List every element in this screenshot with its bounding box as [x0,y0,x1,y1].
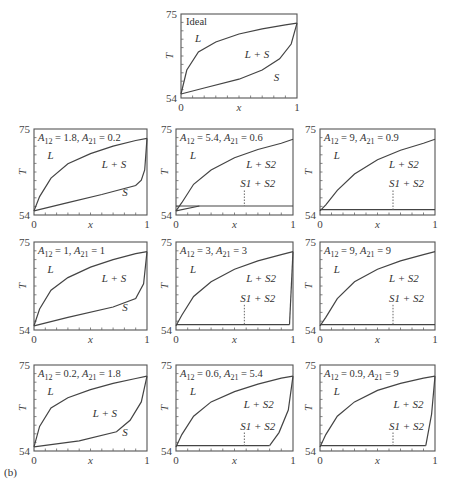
region-label: S [274,71,280,83]
x-tick-max: 1 [144,333,150,345]
x-axis-label: x [231,454,237,466]
panel-r3c3: 755401xTA12 = 0.9, A21 = 9LL + S2S1 + S2 [302,359,438,466]
y-tick-max: 75 [19,123,31,135]
panel-r1c1: 755401xTA12 = 1.8, A21 = 0.2LL + SS [16,123,150,230]
y-tick-max: 75 [161,359,173,371]
x-tick-max: 1 [432,454,438,466]
panel-ideal: 755401xTIdealLL + SS [163,8,300,113]
panel-params: A12 = 1.8, A21 = 0.2 [37,132,121,146]
y-tick-max: 75 [305,123,317,135]
panel-r2c2: 755401xTA12 = 3, A21 = 3LL + S2S1 + S2 [158,236,296,345]
x-tick-min: 0 [173,333,179,345]
panel-params: A12 = 9, A21 = 0.9 [323,132,399,146]
y-tick-min: 54 [305,445,317,457]
x-axis-label: x [87,333,93,345]
x-tick-min: 0 [173,454,179,466]
figure-label: (b) [4,466,17,479]
curve-S2-liquidus-right [270,376,293,446]
x-tick-max: 1 [290,218,296,230]
x-tick-min: 0 [317,218,323,230]
y-tick-max: 75 [166,8,178,20]
y-tick-min: 54 [19,445,31,457]
region-label: L + S [92,407,118,419]
y-tick-min: 54 [166,92,178,104]
y-tick-max: 75 [305,236,317,248]
panel-params: A12 = 0.2, A21 = 1.8 [37,368,121,382]
y-tick-min: 54 [161,209,173,221]
x-tick-min: 0 [31,218,37,230]
region-label: L + S2 [245,158,276,170]
region-label: L + S2 [388,272,419,284]
y-tick-max: 75 [19,236,31,248]
region-label: L + S2 [243,398,274,410]
x-tick-max: 1 [432,218,438,230]
region-label: L + S [101,158,127,170]
panel-title: Ideal [186,16,207,27]
panel-r2c1: 755401xTA12 = 1, A21 = 1LL + SS [16,236,150,345]
region-label: L [333,385,340,397]
panel-params: A12 = 1, A21 = 1 [37,245,105,259]
panel-r3c1: 755401xTA12 = 0.2, A21 = 1.8LL + SS [16,359,150,466]
x-tick-min: 0 [31,333,37,345]
x-axis-label: x [87,218,93,230]
region-label: L + S [101,272,127,284]
region-label: S [122,426,128,438]
y-axis-label: T [158,282,170,289]
region-label: L + S2 [245,272,276,284]
x-axis-label: x [236,101,242,113]
y-axis-label: T [16,404,28,411]
region-label: S1 + S2 [240,420,275,432]
y-axis-label: T [302,168,314,175]
y-axis-label: T [16,168,28,175]
region-label: L + S [244,48,270,60]
x-tick-min: 0 [317,333,323,345]
panel-params: A12 = 0.9, A21 = 9 [323,368,399,382]
x-axis-label: x [374,218,380,230]
y-tick-min: 54 [19,324,31,336]
region-label: S1 + S2 [389,177,424,189]
region-label: L [47,385,54,397]
y-tick-max: 75 [19,359,31,371]
panel-r1c3: 755401xTA12 = 9, A21 = 0.9LL + S2S1 + S2 [302,123,438,230]
x-axis-label: x [231,333,237,345]
y-tick-min: 54 [19,209,31,221]
panel-params: A12 = 9, A21 = 9 [323,245,391,259]
panel-r3c2: 755401xTA12 = 0.6, A21 = 5.4LL + S2S1 + … [158,359,296,466]
y-axis-label: T [16,282,28,289]
y-axis-label: T [302,282,314,289]
region-label: S1 + S2 [389,420,424,432]
region-label: S1 + S2 [240,177,275,189]
x-tick-min: 0 [31,454,37,466]
x-tick-max: 1 [432,333,438,345]
region-label: L [189,385,196,397]
y-tick-max: 75 [161,123,173,135]
y-axis-label: T [158,404,170,411]
x-tick-min: 0 [317,454,323,466]
x-tick-max: 1 [144,218,150,230]
panel-params: A12 = 0.6, A21 = 5.4 [179,368,263,382]
phase-diagram-figure: 755401xTIdealLL + SS755401xTA12 = 1.8, A… [0,0,453,489]
curve-S2-liquidus-right [426,376,435,446]
x-tick-max: 1 [290,333,296,345]
y-tick-max: 75 [305,359,317,371]
region-label: L + S2 [393,398,424,410]
x-tick-max: 1 [290,454,296,466]
region-label: L [47,149,54,161]
region-label: S1 + S2 [389,292,424,304]
y-tick-min: 54 [161,324,173,336]
region-label: L [189,149,196,161]
x-axis-label: x [374,454,380,466]
region-label: S [122,186,128,198]
x-axis-label: x [87,454,93,466]
panel-params: A12 = 5.4, A21 = 0.6 [179,132,263,146]
panel-params: A12 = 3, A21 = 3 [179,245,247,259]
x-tick-max: 1 [144,454,150,466]
region-label: L [47,263,54,275]
y-axis-label: T [302,404,314,411]
region-label: S1 + S2 [240,292,275,304]
panel-r1c2: 755401xTA12 = 5.4, A21 = 0.6LL + S2S1 + … [158,123,296,230]
y-axis-label: T [158,168,170,175]
x-axis-label: x [374,333,380,345]
region-label: S [122,301,128,313]
y-axis-label: T [163,52,175,59]
